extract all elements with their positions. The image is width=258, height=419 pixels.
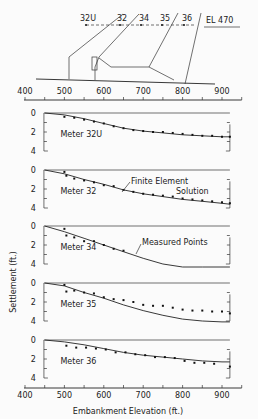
svg-text:0: 0 xyxy=(31,279,36,288)
svg-text:2: 2 xyxy=(31,128,36,137)
top-x-axis: 400500600700800900 xyxy=(17,87,241,100)
svg-text:Meter 32U: Meter 32U xyxy=(60,130,102,139)
svg-text:900: 900 xyxy=(214,87,229,96)
svg-text:0: 0 xyxy=(31,109,36,118)
svg-text:700: 700 xyxy=(136,391,151,400)
svg-text:400: 400 xyxy=(17,87,32,96)
fe-solution-label-2: Solution xyxy=(176,187,209,196)
svg-text:0: 0 xyxy=(31,336,36,345)
svg-text:0: 0 xyxy=(31,222,36,231)
svg-text:4: 4 xyxy=(31,317,36,326)
settlement-figure: 32U 32 34 35 36 EL 470 40050060070080090… xyxy=(0,0,258,419)
svg-text:4: 4 xyxy=(31,204,36,213)
svg-text:800: 800 xyxy=(175,87,190,96)
svg-text:Meter 32: Meter 32 xyxy=(60,187,96,196)
svg-text:Meter 36: Meter 36 xyxy=(60,357,96,366)
svg-text:4: 4 xyxy=(31,260,36,269)
svg-text:900: 900 xyxy=(214,391,229,400)
svg-text:2: 2 xyxy=(31,185,36,194)
settlement-chart: 32U 32 34 35 36 EL 470 40050060070080090… xyxy=(0,0,258,419)
fe-solution-label-1: Finite Element xyxy=(131,177,188,186)
meter-label-35: 35 xyxy=(160,14,170,23)
svg-text:700: 700 xyxy=(136,87,151,96)
meter-label-32: 32 xyxy=(117,14,127,23)
panel-meter-36: 024Meter 36 xyxy=(31,336,231,383)
meter-label-32u: 32U xyxy=(80,14,96,23)
bottom-x-axis: 400500600700800900 xyxy=(17,385,241,400)
svg-text:400: 400 xyxy=(17,391,32,400)
svg-text:2: 2 xyxy=(31,241,36,250)
embankment-diagram: 32U 32 34 35 36 EL 470 xyxy=(36,13,240,84)
y-axis-label: Settlement (ft.) xyxy=(9,251,18,312)
panel-meter-35: 024Meter 35 xyxy=(31,279,231,326)
svg-text:Meter 34: Meter 34 xyxy=(60,243,96,252)
meter-markers xyxy=(85,24,185,26)
svg-text:600: 600 xyxy=(96,87,111,96)
elevation-label: EL 470 xyxy=(206,16,233,25)
meter-label-36: 36 xyxy=(182,14,192,23)
svg-text:800: 800 xyxy=(175,391,190,400)
measured-points-arrow xyxy=(136,244,141,254)
svg-text:500: 500 xyxy=(57,391,72,400)
svg-text:4: 4 xyxy=(31,147,36,156)
meter-label-34: 34 xyxy=(139,14,149,23)
svg-text:600: 600 xyxy=(96,391,111,400)
x-axis-label: Embankment Elevation (ft.) xyxy=(73,407,183,416)
panel-meter-32u: 024Meter 32U xyxy=(31,109,231,156)
svg-text:Meter 35: Meter 35 xyxy=(60,300,96,309)
svg-text:2: 2 xyxy=(31,298,36,307)
svg-text:4: 4 xyxy=(31,374,36,383)
svg-text:0: 0 xyxy=(31,166,36,175)
svg-text:500: 500 xyxy=(57,87,72,96)
svg-text:2: 2 xyxy=(31,355,36,364)
measured-points-label: Measured Points xyxy=(142,238,208,247)
